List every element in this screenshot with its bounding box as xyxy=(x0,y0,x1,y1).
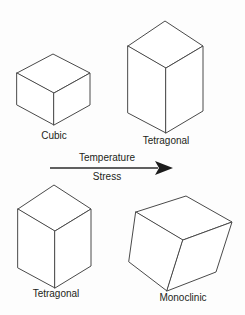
shape-label-cubic: Cubic xyxy=(17,131,91,141)
shape-tetragonal-top xyxy=(128,21,203,133)
shape-tetragonal-bottom xyxy=(18,185,91,288)
shape-cubic xyxy=(17,54,90,125)
arrow-label-temperature: Temperature xyxy=(58,153,156,163)
shape-label-tetragonal-bottom: Tetragonal xyxy=(16,289,96,299)
shape-label-tetragonal-top: Tetragonal xyxy=(128,136,204,146)
shape-label-monoclinic: Monoclinic xyxy=(140,293,226,303)
crystal-transformation-figure: Cubic Tetragonal Tetragonal Monoclinic T… xyxy=(0,0,245,315)
arrow-label-stress: Stress xyxy=(58,172,156,182)
shape-monoclinic xyxy=(129,196,232,291)
